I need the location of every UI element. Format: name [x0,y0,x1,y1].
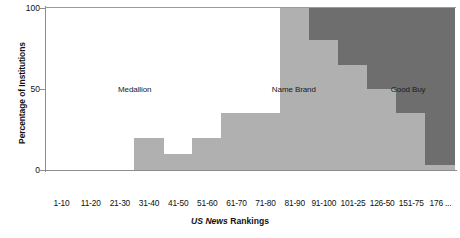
area-segment [396,8,426,113]
y-tick-mark [40,8,45,9]
plot-area: MedallionName BrandGood Buy [47,8,455,170]
x-axis-line [45,170,457,171]
x-tick-label: 151-75 [399,198,424,208]
x-tick-label: 71-80 [255,198,275,208]
x-axis-title: US News Rankings [0,216,460,226]
region-label: Good Buy [391,85,426,94]
area-segment [221,113,251,170]
area-segment [396,113,426,170]
x-tick-label: 31-40 [139,198,159,208]
area-segment [251,113,281,170]
area-segment [163,154,193,170]
area-segment [338,8,368,65]
area-segment [192,138,222,170]
x-tick-label: 126-50 [370,198,395,208]
x-tick-label: 61-70 [226,198,246,208]
x-axis-title-noun: Rankings [230,216,269,226]
y-tick-mark [40,89,45,90]
x-tick-label: 11-20 [81,198,101,208]
region-label: Medallion [118,85,151,94]
area-segment [134,138,164,170]
x-tick-label: 21-30 [110,198,130,208]
x-tick-label: 81-90 [284,198,304,208]
area-segment [367,89,397,170]
area-segment [367,8,397,89]
x-tick-label: 176 ... [429,198,451,208]
area-segment [309,40,339,170]
region-label: Name Brand [272,85,316,94]
y-tick-mark [40,170,45,171]
area-segment [338,65,368,170]
y-tick-label: 100 [14,4,40,13]
x-tick-label: 1-10 [54,198,70,208]
y-axis-ticks: 050100 [14,0,40,238]
x-axis-title-source: US News [191,216,228,226]
x-axis-ticks: 1-1011-2021-3031-4041-5051-6061-7071-808… [47,198,459,210]
y-tick-label: 50 [14,85,40,94]
area-segment [425,165,455,170]
y-tick-label: 0 [14,166,40,175]
area-segment [309,8,339,40]
x-tick-label: 101-25 [341,198,366,208]
chart-container: Percentage of Institutions 050100 Medall… [0,0,460,238]
x-tick-label: 41-50 [168,198,188,208]
area-segment [425,8,455,165]
x-tick-label: 51-60 [197,198,217,208]
x-tick-label: 91-100 [311,198,336,208]
